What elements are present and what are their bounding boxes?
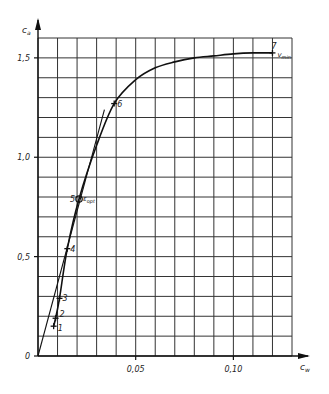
x-axis-arrow-icon <box>298 353 310 359</box>
point-label: 7 <box>271 42 277 51</box>
polar-curve <box>54 53 273 326</box>
x-tick-label: 0,05 <box>127 365 145 374</box>
point-label: 3 <box>62 294 67 303</box>
y-tick-label: 1,5 <box>17 54 30 63</box>
eps-opt-annotation: εopt <box>83 195 96 205</box>
point-label: 5 <box>70 195 75 204</box>
tangent-line <box>38 110 104 356</box>
x-tick-label: 0,10 <box>224 365 242 374</box>
y-tick-label: 1,0 <box>17 153 30 162</box>
data-points: 12345εopt67vmin <box>51 42 291 333</box>
y-tick-label: 0 <box>25 352 30 361</box>
polar-chart: 0,050,1000,51,01,5 12345εopt67vmin ca cw <box>0 0 329 394</box>
point-label: 1 <box>58 324 63 333</box>
y-axis-arrow-icon <box>35 18 41 30</box>
axes <box>35 18 310 359</box>
point-label: 4 <box>70 245 75 254</box>
point-label: 6 <box>117 100 122 109</box>
y-tick-label: 0,5 <box>17 253 30 262</box>
axis-titles: ca cw <box>22 25 310 373</box>
v-min-annotation: vmin <box>277 51 291 60</box>
point-label: 2 <box>60 310 65 319</box>
x-axis-title: cw <box>300 362 310 373</box>
y-axis-title: ca <box>22 25 31 36</box>
